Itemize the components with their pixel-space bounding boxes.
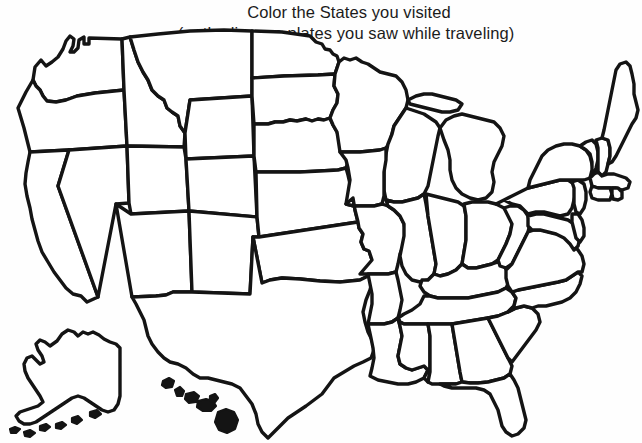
state-utah[interactable] — [127, 146, 189, 214]
state-colorado[interactable] — [186, 156, 257, 217]
state-arizona[interactable] — [116, 204, 192, 297]
state-wyoming[interactable] — [185, 96, 254, 159]
coloring-page-canvas: Color the States you visited (or the lic… — [0, 0, 642, 443]
state-new-mexico[interactable] — [189, 211, 259, 294]
state-south-dakota[interactable] — [252, 74, 338, 124]
state-alaska[interactable] — [16, 330, 120, 424]
us-outline-map[interactable] — [0, 0, 642, 443]
state-connecticut[interactable] — [590, 186, 612, 200]
state-north-dakota[interactable] — [252, 31, 339, 78]
state-new-jersey[interactable] — [572, 180, 586, 214]
state-florida[interactable] — [440, 374, 526, 436]
state-rhode-island[interactable] — [612, 188, 622, 200]
state-arkansas[interactable] — [368, 272, 402, 324]
state-hawaii[interactable] — [162, 378, 238, 433]
